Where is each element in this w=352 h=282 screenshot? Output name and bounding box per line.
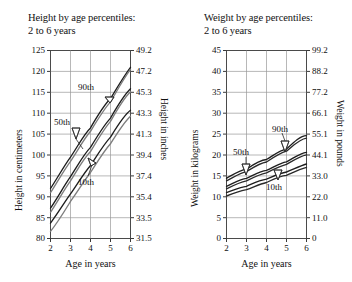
weight-series-label-50th: 50th [233,147,249,157]
weight-xtick-2: 4 [256,243,277,253]
height-xtick-3: 5 [100,243,121,253]
weight-ytick-right-6: 33.0 [312,171,342,181]
height-xtick-2: 4 [80,243,101,253]
weight-series-label-90th: 90th [272,124,288,134]
height-chart-panel: Height by age percentiles: 2 to 6 years [0,0,176,282]
weight-ytick-right-9: 0 [312,233,342,243]
weight-ylabel-left: Weight in kilograms [190,130,200,207]
height-ytick-right-8: 33.5 [136,213,166,223]
weight-ytick-left-8: 5 [196,213,221,223]
weight-xtick-4: 6 [296,243,317,253]
height-xtick-1: 3 [60,243,81,253]
height-series-label-10th: 10th [78,177,94,187]
weight-ytick-right-7: 22.0 [312,192,342,202]
weight-ytick-right-2: 77.2 [312,87,342,97]
height-ytick-right-7: 35.4 [136,192,166,202]
weight-xtick-0: 2 [216,243,237,253]
height-right-ticks [131,51,135,239]
weight-ylabel-right: Weight in pounds [335,100,345,167]
height-ytick-right-2: 45.3 [136,87,166,97]
chart-pair-figure: Height by age percentiles: 2 to 6 years [0,0,352,282]
height-xtick-4: 6 [120,243,141,253]
height-series-label-90th: 90th [78,82,94,92]
weight-ytick-left-1: 40 [196,66,221,76]
height-bottom-ticks [51,239,131,243]
weight-ytick-right-1: 88.2 [312,66,342,76]
weight-bottom-ticks [227,239,307,243]
weight-ytick-right-8: 11.0 [312,213,342,223]
height-ytick-left-9: 80 [20,233,45,243]
weight-ytick-left-0: 45 [196,45,221,55]
height-series-label-50th: 50th [54,117,70,127]
height-ylabel-right: Height in inches [159,98,169,160]
weight-ytick-left-3: 30 [196,108,221,118]
height-ytick-left-3: 110 [20,108,45,118]
height-ytick-left-2: 115 [20,87,45,97]
weight-xtick-3: 5 [276,243,297,253]
height-left-ticks [47,51,51,239]
weight-ytick-left-9: 0 [196,233,221,243]
height-xtick-0: 2 [40,243,61,253]
weight-ytick-left-2: 35 [196,87,221,97]
height-ytick-right-0: 49.2 [136,45,166,55]
weight-xlabel: Age in years [216,258,317,269]
height-ytick-right-1: 47.2 [136,66,166,76]
weight-series-label-10th: 10th [266,182,282,192]
height-ytick-left-1: 120 [20,66,45,76]
weight-chart-panel: Weight by age percentiles: 2 to 6 years [176,0,352,282]
weight-xtick-1: 3 [236,243,257,253]
weight-right-ticks [307,51,311,239]
height-ytick-left-0: 125 [20,45,45,55]
height-xlabel: Age in years [40,258,141,269]
height-ytick-right-6: 37.4 [136,171,166,181]
height-ytick-left-8: 85 [20,213,45,223]
weight-ytick-right-0: 99.2 [312,45,342,55]
height-ylabel-left: Height in centimeters [14,129,24,211]
height-ytick-right-9: 31.5 [136,233,166,243]
weight-left-ticks [223,51,227,239]
